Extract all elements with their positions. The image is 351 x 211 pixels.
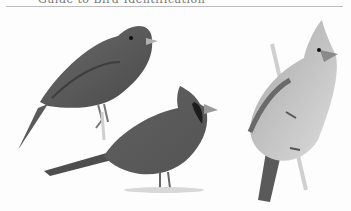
cardinals-illustration bbox=[0, 0, 351, 211]
female-cardinal bbox=[250, 20, 338, 202]
